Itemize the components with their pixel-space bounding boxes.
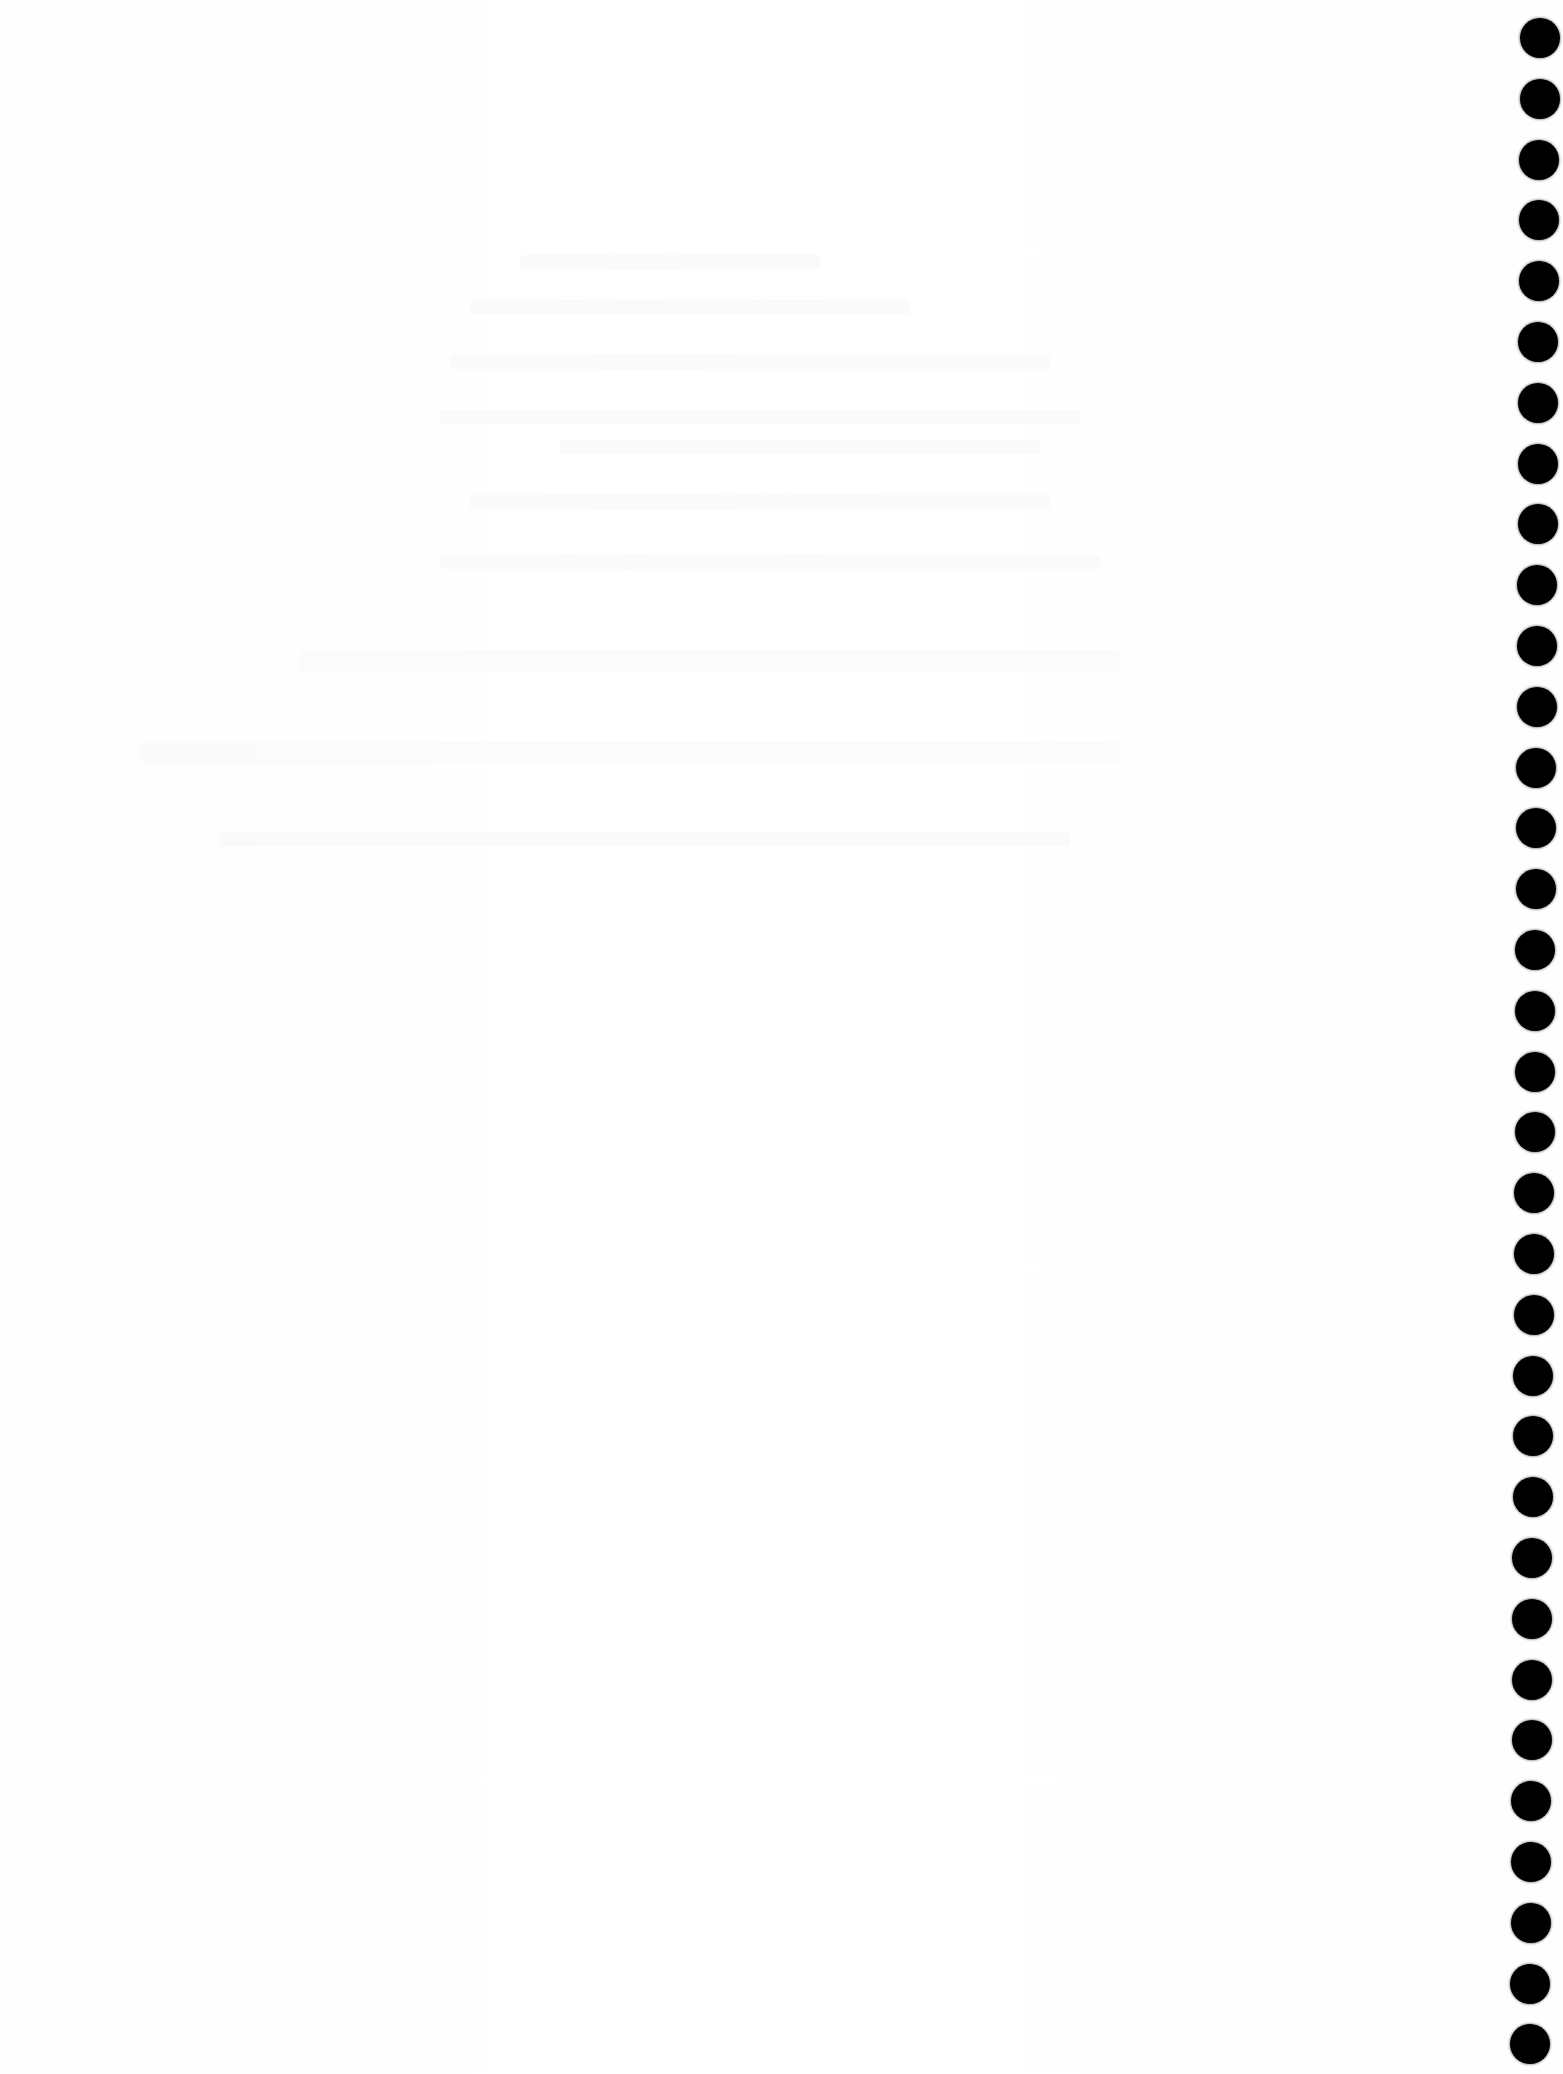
- binder-hole-icon: [1516, 869, 1556, 909]
- binder-hole-icon: [1514, 1173, 1554, 1213]
- binder-hole-icon: [1513, 1477, 1553, 1517]
- ghost-text-line: [470, 300, 910, 314]
- ghost-text-line: [300, 650, 1120, 672]
- binder-hole-icon: [1511, 1781, 1551, 1821]
- binder-hole-icon: [1517, 565, 1557, 605]
- binder-hole-icon: [1517, 687, 1557, 727]
- binder-hole-icon: [1515, 991, 1555, 1031]
- binder-hole-strip: [1493, 0, 1563, 2074]
- binder-hole-icon: [1515, 930, 1555, 970]
- binder-hole-icon: [1519, 200, 1559, 240]
- binder-hole-icon: [1518, 322, 1558, 362]
- binder-hole-icon: [1516, 808, 1556, 848]
- ghost-text-line: [440, 410, 1080, 424]
- ghost-text-line: [440, 555, 1100, 569]
- ghost-text-line: [220, 832, 1070, 846]
- binder-hole-icon: [1517, 626, 1557, 666]
- ghost-text-line: [140, 742, 1120, 764]
- ghost-text-line: [470, 495, 1050, 509]
- binder-hole-icon: [1512, 1538, 1552, 1578]
- binder-hole-icon: [1511, 1903, 1551, 1943]
- binder-hole-icon: [1520, 18, 1560, 58]
- binder-hole-icon: [1512, 1599, 1552, 1639]
- binder-hole-icon: [1515, 1052, 1555, 1092]
- binder-hole-icon: [1512, 1720, 1552, 1760]
- scanned-page: [0, 0, 1563, 2074]
- binder-hole-icon: [1510, 1964, 1550, 2004]
- binder-hole-icon: [1518, 444, 1558, 484]
- binder-hole-icon: [1513, 1416, 1553, 1456]
- ghost-text-line: [560, 440, 1040, 454]
- binder-hole-icon: [1516, 748, 1556, 788]
- ghost-text-line: [520, 255, 820, 269]
- binder-hole-icon: [1510, 2024, 1550, 2064]
- binder-hole-icon: [1513, 1356, 1553, 1396]
- binder-hole-icon: [1515, 1112, 1555, 1152]
- binder-hole-icon: [1514, 1295, 1554, 1335]
- binder-hole-icon: [1519, 261, 1559, 301]
- binder-hole-icon: [1520, 79, 1560, 119]
- binder-hole-icon: [1511, 1842, 1551, 1882]
- binder-hole-icon: [1519, 140, 1559, 180]
- ghost-text-line: [450, 355, 1050, 369]
- binder-hole-icon: [1518, 383, 1558, 423]
- binder-hole-icon: [1518, 504, 1558, 544]
- binder-hole-icon: [1514, 1234, 1554, 1274]
- binder-hole-icon: [1512, 1660, 1552, 1700]
